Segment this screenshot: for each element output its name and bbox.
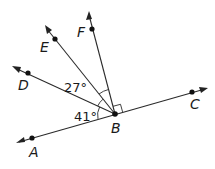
angle-arc-abd xyxy=(98,107,100,119)
arrowhead-f-icon xyxy=(86,11,92,20)
point-d xyxy=(25,70,30,75)
point-e xyxy=(52,36,57,41)
angle-diagram: A B C D E F 27° 41° xyxy=(0,0,215,169)
label-a: A xyxy=(28,144,39,160)
point-c xyxy=(189,89,194,94)
angle-label-41: 41° xyxy=(74,109,97,124)
ray-be xyxy=(47,29,115,114)
angle-arc-dbe xyxy=(98,99,103,106)
angle-arc-ebf xyxy=(99,90,109,95)
label-c: C xyxy=(190,96,200,112)
label-e: E xyxy=(40,39,49,55)
point-f xyxy=(89,26,94,31)
arrowhead-e-icon xyxy=(45,25,52,34)
arrowhead-d-icon xyxy=(12,66,21,73)
label-b: B xyxy=(111,120,121,136)
point-a xyxy=(29,135,34,140)
point-b xyxy=(112,111,118,117)
label-d: D xyxy=(18,77,29,93)
arrowhead-c-icon xyxy=(199,87,208,93)
angle-label-27: 27° xyxy=(64,80,87,95)
label-f: F xyxy=(77,24,86,40)
arrowhead-a-icon xyxy=(16,137,25,143)
